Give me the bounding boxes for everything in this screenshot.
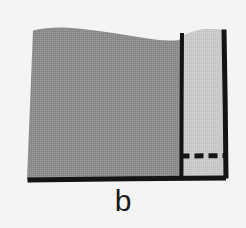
- baseline-stroke: [28, 178, 227, 180]
- figure-caption-label: b: [0, 184, 246, 218]
- main-body-region: [27, 28, 182, 180]
- figure-container: b: [0, 0, 246, 228]
